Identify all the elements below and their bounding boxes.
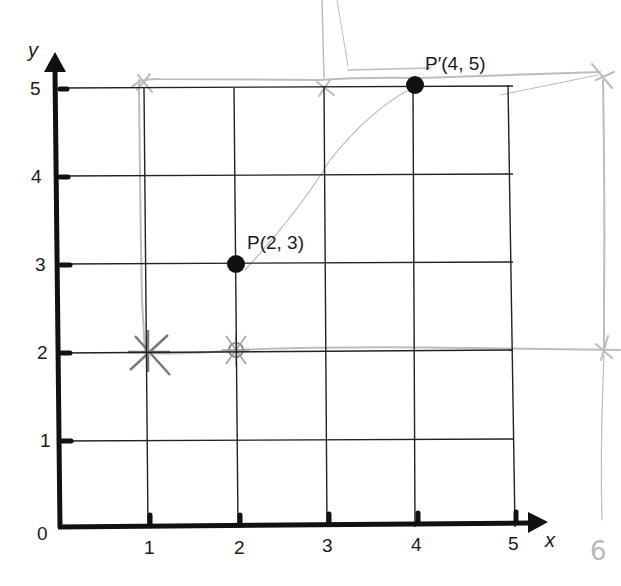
x-tick-4: 4 — [411, 535, 422, 554]
pencil-sketch — [132, 0, 620, 520]
grid-lines — [58, 85, 515, 527]
x-tick-5: 5 — [508, 534, 519, 553]
y-tick-4: 4 — [31, 167, 42, 186]
y-tick-3: 3 — [35, 255, 46, 274]
point-p-prime-label: P′(4, 5) — [425, 54, 486, 73]
point-p — [227, 255, 245, 273]
y-tick-1: 1 — [40, 431, 51, 450]
x-axis — [58, 523, 528, 527]
coordinate-plane: y x 0 5 4 3 2 1 1 2 3 4 5 P(2, 3) P′(4, … — [0, 0, 621, 586]
pencil-handwritten-six: 6 — [590, 538, 607, 564]
point-p-prime — [406, 76, 424, 94]
axes — [44, 52, 548, 533]
x-tick-3: 3 — [322, 536, 333, 555]
x-axis-label: x — [545, 530, 555, 550]
x-tick-2: 2 — [234, 538, 245, 557]
tick-marks — [60, 89, 516, 525]
x-tick-1: 1 — [144, 538, 155, 557]
point-p-label: P(2, 3) — [247, 233, 304, 252]
y-axis-arrow — [44, 52, 66, 72]
y-axis — [55, 70, 60, 528]
y-tick-2: 2 — [37, 343, 48, 362]
y-tick-5: 5 — [30, 79, 41, 98]
y-axis-label: y — [28, 40, 38, 60]
origin-label: 0 — [37, 524, 48, 543]
chart-svg — [0, 0, 621, 586]
